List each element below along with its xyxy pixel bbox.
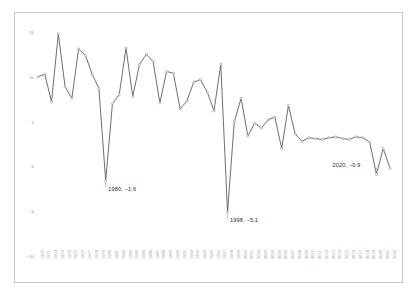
data-point-marker [159,102,161,104]
data-point-marker [71,97,73,99]
data-point-marker [91,73,93,75]
data-point-marker [254,122,256,124]
data-point-marker [226,211,228,213]
data-point-marker [355,136,357,138]
data-point-marker [152,60,154,62]
data-point-marker [213,110,215,112]
data-point-marker [64,86,66,88]
data-point-marker [172,72,174,74]
data-point-marker [105,180,107,182]
data-point-marker [382,147,384,149]
data-point-marker [308,137,310,139]
data-point-marker [348,138,350,140]
annotation-leader-lines [106,167,377,219]
data-point-marker [281,147,283,149]
data-point-marker [145,53,147,55]
data-point-marker [287,104,289,106]
data-point-marker [132,95,134,97]
data-point-marker [260,127,262,129]
data-point-marker [37,76,39,78]
data-point-marker [166,70,168,72]
data-point-marker [314,138,316,140]
data-line [38,34,390,212]
data-point-marker [342,138,344,140]
data-point-marker [206,91,208,93]
data-point-marker [84,54,86,56]
data-point-marker [186,100,188,102]
data-point-marker [57,33,59,35]
data-point-marker [233,121,235,123]
data-point-marker [274,116,276,118]
data-point-marker [389,167,391,169]
data-point-marker [369,141,371,143]
data-point-marker [362,137,364,139]
annotation-label: 1998, −5.1 [230,217,258,223]
data-point-marker [78,48,80,50]
data-point-marker [240,97,242,99]
data-point-marker [111,103,113,105]
data-point-marker [179,108,181,110]
data-point-marker [193,81,195,83]
data-point-marker [220,63,222,65]
annotation-label: 2020, −0.9 [332,162,360,168]
data-point-marker [247,135,249,137]
annotation-label: 1980, −1.6 [108,186,136,192]
data-point-marker [375,173,377,175]
data-point-marker [50,101,52,103]
data-point-marker [138,63,140,65]
data-point-marker [44,73,46,75]
data-point-marker [199,78,201,80]
data-point-marker [335,136,337,138]
chart-plot-area [0,0,417,294]
chart-figure: 151050−5−10 1970197119721973197419751976… [0,0,417,294]
data-point-marker [267,119,269,121]
data-point-marker [328,137,330,139]
data-point-marker [294,133,296,135]
data-point-marker [125,47,127,49]
data-markers [37,33,391,214]
data-point-marker [301,140,303,142]
data-point-marker [321,138,323,140]
data-point-marker [118,94,120,96]
data-point-marker [98,87,100,89]
